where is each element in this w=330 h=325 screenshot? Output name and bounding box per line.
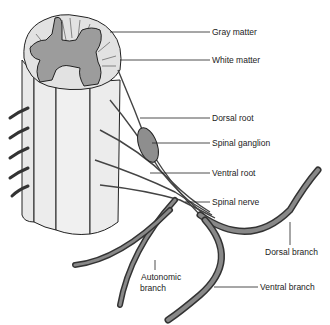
label-ventral-root: Ventral root — [212, 168, 255, 178]
label-autonomic-branch-line1: Autonomic — [141, 272, 181, 282]
spinal-ganglion — [133, 125, 162, 165]
label-white-matter: White matter — [212, 55, 260, 65]
label-gray-matter: Gray matter — [212, 27, 257, 37]
label-dorsal-root: Dorsal root — [212, 113, 254, 123]
label-ventral-branch: Ventral branch — [260, 282, 315, 292]
label-dorsal-branch: Dorsal branch — [265, 247, 318, 257]
label-autonomic-branch-line2: branch — [140, 283, 166, 293]
label-spinal-ganglion: Spinal ganglion — [212, 138, 270, 148]
label-spinal-nerve: Spinal nerve — [212, 197, 259, 207]
